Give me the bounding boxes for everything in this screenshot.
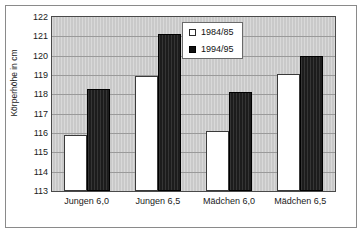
y-axis-tick-122: 122 xyxy=(33,13,48,22)
y-axis-tick-120: 120 xyxy=(33,51,48,60)
x-axis-tick-label: Mädchen 6,0 xyxy=(194,196,265,206)
bar[interactable] xyxy=(64,135,87,191)
bar-group xyxy=(264,17,335,191)
bar[interactable] xyxy=(229,92,252,191)
legend-label: 1994/95 xyxy=(201,44,234,54)
y-axis-title: Körperhöhe in cm xyxy=(9,23,19,143)
x-axis-tick-label: Jungen 6,0 xyxy=(51,196,122,206)
bar[interactable] xyxy=(135,76,158,191)
bar[interactable] xyxy=(206,131,229,191)
legend-item-1994-95[interactable]: 1994/95 xyxy=(189,44,234,54)
x-axis-tick-label: Mädchen 6,5 xyxy=(265,196,336,206)
legend-item-1984-85[interactable]: 1984/85 xyxy=(189,27,234,37)
legend-swatch-icon xyxy=(189,46,196,53)
y-axis-tick-117: 117 xyxy=(34,109,48,118)
x-axis-tick-label: Jungen 6,5 xyxy=(122,196,193,206)
y-axis-tick-113: 113 xyxy=(34,187,48,196)
legend-label: 1984/85 xyxy=(201,27,234,37)
bar[interactable] xyxy=(158,34,181,191)
y-axis-tick-119: 119 xyxy=(34,71,48,80)
bar[interactable] xyxy=(277,74,300,191)
y-axis-tick-121: 121 xyxy=(33,32,48,41)
x-axis-tick-labels: Jungen 6,0Jungen 6,5Mädchen 6,0Mädchen 6… xyxy=(51,196,336,206)
y-axis-tick-118: 118 xyxy=(34,90,48,99)
bar-group xyxy=(52,17,123,191)
bar[interactable] xyxy=(87,89,110,191)
bar[interactable] xyxy=(300,56,323,191)
chart-legend: 1984/851994/95 xyxy=(182,22,243,59)
legend-swatch-icon xyxy=(189,29,196,36)
chart-figure: Körperhöhe in cm 12212112011911811711611… xyxy=(0,0,362,233)
y-axis-tick-116: 116 xyxy=(34,129,48,138)
y-axis-tick-115: 115 xyxy=(34,148,48,157)
y-axis-tick-labels: 122121120119118117116115114113 xyxy=(22,16,48,192)
y-axis-tick-114: 114 xyxy=(34,167,48,176)
